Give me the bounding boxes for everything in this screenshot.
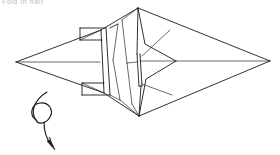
inner-crease-long-diagonal-a: [113, 24, 118, 60]
band-right-edge: [106, 28, 110, 95]
body-upper-left-edge: [101, 8, 138, 30]
inner-crease-secondary: [122, 20, 127, 63]
body-lower-left-edge: [104, 93, 139, 116]
left-spike-upper-edge: [16, 30, 101, 62]
left-spike-group: [16, 30, 104, 93]
centre-tick-left: [127, 62, 137, 63]
central-spine-upper: [137, 8, 138, 54]
inner-crease-upper-left: [110, 24, 118, 28]
body-upper-right-edge: [138, 8, 270, 61]
central-slit-group: [127, 8, 142, 116]
lower-flap-group: [82, 83, 110, 95]
inner-crease-link-top: [122, 8, 138, 20]
central-slit-right-line: [140, 54, 142, 86]
vertical-band-group: [101, 28, 120, 100]
inner-crease-long-diagonal-b: [113, 60, 120, 100]
body-lower-right-edge: [139, 61, 270, 116]
body-diamond-group: [101, 8, 270, 116]
chevron-inner-upper: [142, 30, 170, 56]
origami-figure: [0, 0, 280, 155]
inner-crease-secondary-lower: [127, 63, 132, 104]
diagram-canvas: Fold in half: [0, 0, 280, 155]
central-slit-left-line: [137, 54, 139, 86]
band-left-edge: [101, 30, 104, 93]
lower-flap-diagonal: [82, 83, 104, 93]
chevron-inner-lower: [142, 84, 172, 95]
upper-flap-diagonal: [80, 30, 101, 40]
inner-crease-long-diagonal-c: [120, 100, 139, 116]
left-spike-lower-edge: [16, 62, 104, 93]
chevron-pleat-group: [138, 8, 176, 116]
turn-over-rotation-arrow: [32, 92, 55, 150]
rotation-arrow-tail: [33, 92, 47, 120]
rotation-arrow-head: [47, 137, 55, 150]
